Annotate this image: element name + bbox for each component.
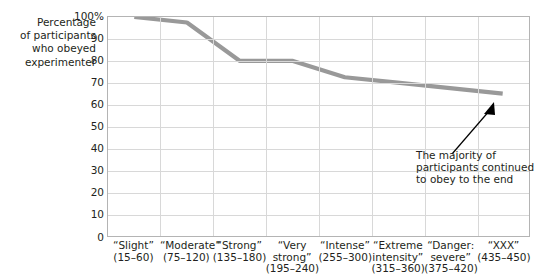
x-axis-tick-label-line: (315–360): [371, 263, 424, 275]
gridline-vertical: [425, 17, 426, 236]
annotation-line-3: to obey to the end: [416, 174, 541, 186]
x-axis-tick-label-line: (435–450): [477, 252, 530, 264]
y-axis-tick-label: 50: [60, 121, 104, 132]
x-axis-tick-label-line: (375–420): [424, 263, 477, 275]
x-axis-tick-label-line: “Danger:: [424, 240, 477, 252]
x-axis-tick-label-line: “Strong”: [213, 240, 266, 252]
line-chart-figure: Percentage of participants who obeyed ex…: [0, 0, 555, 280]
gridline-vertical: [372, 17, 373, 236]
x-axis-tick-label-line: “Slight”: [107, 240, 160, 252]
gridline-vertical: [266, 17, 267, 236]
x-axis-tick-label: “Danger:severe”(375–420): [424, 240, 477, 275]
x-axis-tick-label-line: (15–60): [107, 252, 160, 264]
gridline-vertical: [319, 17, 320, 236]
y-axis-tick-label: 90: [60, 33, 104, 44]
x-axis-tick-label-line: (195–240): [266, 263, 319, 275]
y-axis-tick-label: 40: [60, 143, 104, 154]
x-axis-tick-label-line: (135–180): [213, 252, 266, 264]
gridline-vertical: [160, 17, 161, 236]
x-axis-tick-label: “XXX”(435–450): [477, 240, 530, 263]
x-axis-tick-labels: “Slight”(15–60)“Moderate”(75–120)“Strong…: [107, 240, 530, 280]
x-axis-tick-label: “Slight”(15–60): [107, 240, 160, 263]
y-axis-tick-label: 0: [60, 232, 104, 243]
annotation-text: The majority of participants continued t…: [416, 150, 541, 185]
x-axis-tick-label: “Intense”(255–300): [319, 240, 372, 263]
x-axis-tick-label-line: “Intense”: [319, 240, 372, 252]
x-axis-tick-label: “Extremeintensity”(315–360): [371, 240, 424, 275]
x-axis-tick-label-line: “Moderate”: [160, 240, 213, 252]
y-axis-tick-labels: 100%9080706050403020100: [60, 0, 104, 280]
x-axis-tick-label-line: “Extreme: [371, 240, 424, 252]
x-axis-tick-label: “Strong”(135–180): [213, 240, 266, 263]
y-axis-tick-label: 60: [60, 99, 104, 110]
y-axis-tick-label: 70: [60, 77, 104, 88]
y-axis-tick-label: 30: [60, 165, 104, 176]
gridline-vertical: [213, 17, 214, 236]
x-axis-tick-label: “Moderate”(75–120): [160, 240, 213, 263]
y-axis-tick-label: 100%: [60, 11, 104, 22]
x-axis-tick-label-line: “XXX”: [477, 240, 530, 252]
x-axis-tick-label: “Verystrong”(195–240): [266, 240, 319, 275]
annotation-line-2: participants continued: [416, 162, 541, 174]
x-axis-tick-label-line: (255–300): [319, 252, 372, 264]
x-axis-tick-label-line: (75–120): [160, 252, 213, 264]
y-axis-tick-label: 10: [60, 209, 104, 220]
y-axis-tick-label: 80: [60, 55, 104, 66]
x-axis-tick-label-line: “Very: [266, 240, 319, 252]
y-axis-tick-label: 20: [60, 187, 104, 198]
